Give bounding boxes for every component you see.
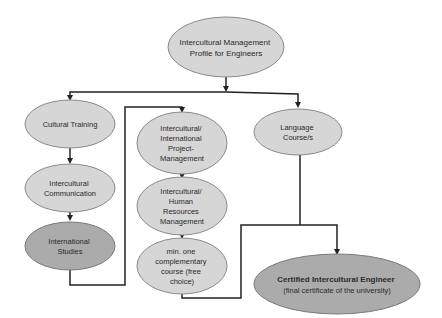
node-course-line-3: course (free [161,267,201,276]
node-hr-line-2: Human [169,197,193,206]
node-profile-line-2: Profile for Engineers [190,49,262,58]
node-cultural-training-line-1: Cultural Training [43,120,98,129]
node-studies-line-2: Studies [57,247,82,256]
node-certified-line-1: Certified Intercultural Engineer [277,275,394,284]
connector-bus-to-language-course [226,92,298,105]
node-international-studies: International Studies [25,222,115,270]
svg-text:Intercultural Communicat: Intercultural Communication [44,179,96,198]
node-project-line-4: Management [160,154,205,163]
diagram-canvas: Intercultural Management Profile for Eng… [0,0,442,318]
node-language-line-1: Language [280,123,313,132]
connector-bus-to-cultural-training [70,92,226,98]
node-hr-line-3: Resources [163,207,199,216]
svg-text:Cultural Training: Cultural Training [43,120,98,129]
node-hr-line-1: Intercultural/ [160,187,202,196]
node-course-line-4: choice) [170,277,195,286]
node-profile-line-1: Intercultural Management [180,38,271,47]
node-profile: Intercultural Management Profile for Eng… [168,17,284,77]
node-course-line-1: min. one [167,247,196,256]
node-certified-engineer: Certified Intercultural Engineer (final … [254,254,420,314]
node-hr-management: Intercultural/ Human Resources Managemen… [137,177,227,235]
node-cultural-training: Cultural Training [25,100,115,148]
svg-text:Intercultural/ Human: Intercultural/ Human Resources Managemen… [160,187,205,226]
svg-text:Language Course/s: Language Course/s [280,123,315,142]
node-language-line-2: Course/s [283,133,313,142]
node-project-line-3: Project- [168,144,194,153]
node-project-line-2: International [160,134,202,143]
node-certified-line-2: (final certificate of the university) [283,286,391,295]
node-intercultural-communication: Intercultural Communication [25,164,115,212]
node-project-management: Intercultural/ International Project- Ma… [137,112,227,174]
node-studies-line-1: International [48,237,90,246]
node-communication-line-1: Intercultural [49,179,89,188]
node-project-line-1: Intercultural/ [160,124,202,133]
node-communication-line-2: Communication [44,189,96,198]
node-language-course: Language Course/s [254,109,342,155]
node-course-line-2: complementary [155,257,207,266]
node-hr-line-4: Management [160,217,205,226]
node-complementary-course: min. one complementary course (free choi… [137,238,227,294]
